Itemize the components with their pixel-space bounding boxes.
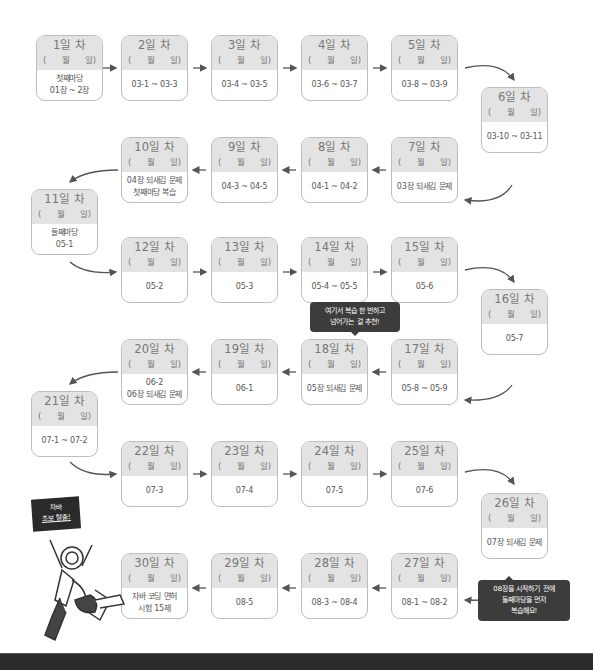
callout-line: 08장을 시작하기 전에	[484, 584, 564, 595]
curved-arrow-icon	[70, 262, 116, 273]
curved-arrow-icon	[70, 462, 116, 475]
callout-line: 여기서 복습 한 번하고	[316, 306, 394, 317]
callout-line: 둘째마당을 먼저	[484, 595, 564, 606]
mascot-sign: 자바 초보 탈출!	[31, 496, 81, 531]
curved-arrow-icon	[70, 170, 118, 182]
curved-arrow-icon	[465, 385, 512, 400]
callout-line: 넘어가는 걸 추천!	[316, 317, 394, 328]
curved-arrow-icon	[465, 268, 514, 282]
footer-bar	[0, 653, 593, 670]
before-ch8-callout: 08장을 시작하기 전에 둘째마당을 먼저 복습해요!	[478, 580, 570, 621]
callout-line: 복습해요!	[484, 606, 564, 617]
curved-arrow-icon	[465, 470, 514, 484]
mascot-sign-line: 초보 탈출!	[32, 511, 81, 524]
mascot-illustration	[45, 540, 124, 640]
review-tip-callout: 여기서 복습 한 번하고 넘어가는 걸 추천!	[310, 302, 400, 332]
curved-arrow-icon	[70, 372, 118, 384]
curved-arrow-icon	[465, 66, 514, 80]
curved-arrow-icon	[465, 185, 512, 201]
